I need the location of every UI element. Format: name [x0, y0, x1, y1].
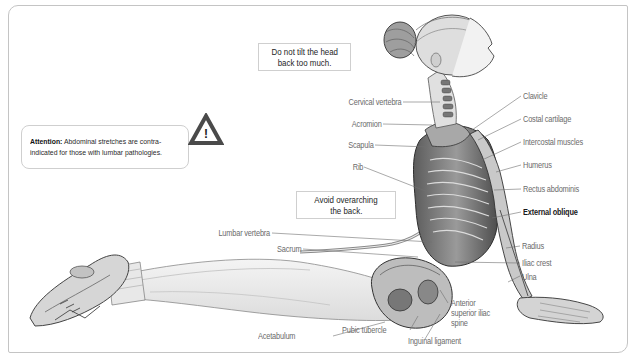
head-tilt-warning-line1: Do not tilt the head — [271, 47, 337, 58]
back-arch-warning-line2: the back. — [330, 206, 362, 217]
asis-line1: Anterior — [451, 298, 476, 308]
legs — [108, 259, 400, 320]
attention-title: Attention: — [30, 137, 62, 146]
label-acetabulum: Acetabulum — [258, 331, 295, 341]
back-arch-warning: Avoid overarching the back. — [296, 191, 396, 219]
label-intercostal-muscles: Intercostal muscles — [523, 137, 583, 147]
label-radius: Radius — [522, 241, 544, 251]
label-rectus-abdominis: Rectus abdominis — [523, 184, 579, 194]
label-acromion: Acromion — [352, 119, 382, 129]
head-tilt-warning-line2: back too much. — [278, 58, 332, 69]
label-anterior-superior-iliac-spine: Anterior superior iliac spine — [451, 298, 490, 328]
label-costal-cartilage: Costal cartilage — [523, 114, 571, 124]
attention-line2: indicated for those with lumbar patholog… — [30, 147, 162, 158]
asis-line3: spine — [451, 318, 468, 328]
label-inguinal-ligament: Inguinal ligament — [408, 336, 461, 346]
head — [384, 15, 494, 77]
attention-callout: Attention: Abdominal stretches are contr… — [21, 125, 189, 169]
head-tilt-warning: Do not tilt the head back too much. — [258, 43, 351, 71]
label-lumbar-vertebra: Lumbar vertebra — [218, 228, 270, 238]
asis-line2: superior iliac — [451, 308, 490, 318]
svg-text:!: ! — [204, 127, 208, 141]
label-ulna: Ulna — [522, 272, 537, 282]
label-scapula: Scapula — [348, 140, 374, 150]
label-iliac-crest: Iliac crest — [522, 258, 551, 268]
shoes — [30, 255, 129, 326]
label-humerus: Humerus — [523, 160, 552, 170]
label-clavicle: Clavicle — [523, 91, 548, 101]
attention-line1: Abdominal stretches are contra- — [62, 137, 161, 146]
back-arch-warning-line1: Avoid overarching — [314, 195, 377, 206]
label-rib: Rib — [352, 162, 363, 172]
warning-triangle-icon: ! — [188, 113, 224, 147]
spine — [300, 220, 432, 252]
label-sacrum: Sacrum — [277, 244, 301, 254]
label-external-oblique: External oblique — [523, 207, 578, 217]
label-cervical-vertebra: Cervical vertebra — [349, 97, 402, 107]
label-pubic-tubercle: Pubic tubercle — [342, 325, 386, 335]
